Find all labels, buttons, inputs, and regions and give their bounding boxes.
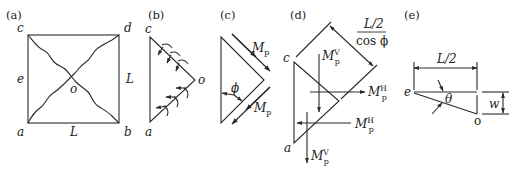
length-label-numerator: L/2 [363,17,384,31]
vertex-label-b: b [124,125,132,139]
panel-label-c: (c) [220,8,235,22]
angle-label-phi: ϕ [231,81,239,95]
vertex-label-a: a [145,125,152,139]
length-label-denominator: cos ϕ [356,34,388,48]
vertex-label-c: c [145,22,152,36]
triangle-segment [294,62,339,143]
panel-label-b: (b) [148,8,164,22]
moment-label-horizontal-left: MHp [354,116,374,134]
angle-arrow-icon [234,95,242,101]
moment-label-bottom: Mp [253,101,271,117]
moment-arc-icon [164,106,168,116]
moment-label-top: Mp [251,41,269,57]
panel-label-a: (a) [6,8,22,22]
moment-label-horizontal-right: MHp [367,84,387,102]
triangle-segment-aco [150,37,195,122]
moment-label-vertical-top: MVp [321,48,340,66]
dimension-label-bottom: L [69,125,78,139]
angle-arrow-icon [432,103,442,114]
vertex-label-c: c [283,51,290,65]
moment-arc-icon [162,44,172,48]
vertex-label-e: e [17,72,24,86]
panel-label-e: (e) [404,8,420,22]
panel-a: (a) c d a b e o L L [6,8,134,139]
panel-c: (c) ϕ Mp Mp [220,8,271,124]
vertex-label-o: o [198,73,205,87]
vertex-label-a: a [17,125,24,139]
moment-arc-icon [170,52,180,56]
vertex-label-a: a [284,141,291,155]
moment-arc-icon [178,60,188,64]
vertex-label-c: c [17,21,24,35]
angle-arrow-icon [438,80,443,91]
angle-label-theta: θ [445,92,453,106]
panel-e: (e) L/2 θ w e o [404,8,509,128]
moment-arrow-icon [176,63,179,71]
panel-label-d: (d) [290,8,306,22]
moment-arrow-icon [167,55,171,63]
dimension-label-deflection: w [489,97,500,111]
panel-b: (b) c a o [145,8,205,139]
dimension-label-span: L/2 [436,52,457,66]
vertex-label-o: o [70,82,77,96]
moment-label-vertical-bottom: MVp [310,148,329,166]
vertex-label-e: e [404,85,411,99]
yield-line-figure: (a) c d a b e o L L (b) c a o [0,0,526,169]
vertex-label-d: d [124,21,132,35]
moment-arrow-icon [158,47,163,55]
dimension-label-right: L [125,72,134,86]
vertex-label-o: o [474,114,481,128]
panel-d: (d) L/2 cos ϕ MVp MHp MHp MVp c a [283,8,388,166]
yield-line-diagonal-cb [28,35,119,123]
